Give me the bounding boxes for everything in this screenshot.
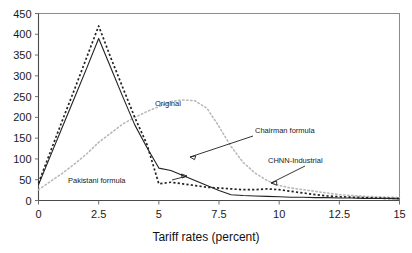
x-tick-label: 0: [35, 208, 41, 220]
annotation-pakistani-formula: Pakistani formula: [68, 176, 126, 185]
chart-container: 050100150200250300350400450 02.557.51012…: [0, 0, 412, 253]
tariff-distribution-chart: 050100150200250300350400450 02.557.51012…: [0, 0, 412, 253]
y-tick-label: 400: [13, 28, 31, 40]
x-tick-label: 15: [393, 208, 405, 220]
y-tick-label: 200: [13, 111, 31, 123]
annotation-original: Original: [155, 99, 181, 108]
x-tick-label: 5: [156, 208, 162, 220]
y-tick-label: 300: [13, 70, 31, 82]
annotation-chairman-formula: Chairman formula: [255, 126, 315, 135]
x-tick-label: 10: [273, 208, 285, 220]
x-tick-label: 2.5: [91, 208, 106, 220]
annotation-chnn-industrial: CHNN-Industrial: [268, 156, 323, 165]
chart-background: [0, 0, 412, 253]
y-tick-label: 350: [13, 49, 31, 61]
x-axis-title: Tariff rates (percent): [152, 230, 259, 244]
x-tick-label: 12.5: [329, 208, 350, 220]
y-tick-label: 450: [13, 8, 31, 20]
y-tick-label: 100: [13, 153, 31, 165]
y-tick-label: 150: [13, 132, 31, 144]
y-tick-label: 250: [13, 91, 31, 103]
x-tick-label: 7.5: [211, 208, 226, 220]
y-tick-label: 50: [19, 174, 31, 186]
y-tick-label: 0: [25, 195, 31, 207]
